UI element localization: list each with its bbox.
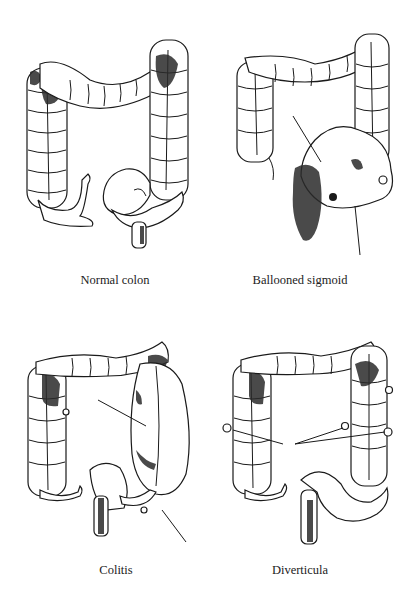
caption-normal-colon: Normal colon bbox=[80, 273, 149, 288]
ballooned-sigmoid-illustration bbox=[205, 0, 410, 300]
colitis-illustration bbox=[0, 300, 205, 589]
caption-colitis: Colitis bbox=[99, 563, 132, 578]
normal-colon-illustration bbox=[0, 0, 205, 300]
caption-ballooned-sigmoid: Ballooned sigmoid bbox=[253, 273, 348, 288]
panel-diverticula: Diverticula bbox=[205, 300, 410, 589]
pointer-line bbox=[162, 510, 186, 542]
pointer-line bbox=[295, 428, 343, 444]
panel-ballooned-sigmoid: Ballooned sigmoid bbox=[205, 0, 410, 300]
caption-diverticula: Diverticula bbox=[272, 563, 328, 578]
diverticula-illustration bbox=[205, 300, 410, 589]
panel-colitis: Colitis bbox=[0, 300, 205, 589]
pointer-line bbox=[355, 206, 360, 255]
panel-normal-colon: Normal colon bbox=[0, 0, 205, 300]
